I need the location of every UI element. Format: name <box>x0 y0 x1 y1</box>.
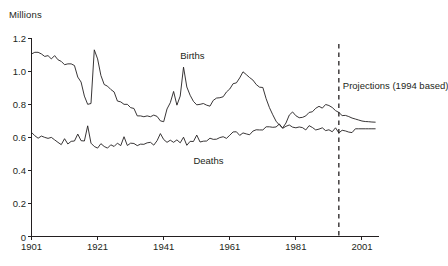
x-axis-tick-label: 1901 <box>21 241 42 252</box>
data-series-group <box>32 50 376 148</box>
x-axis-tick-label: 2001 <box>351 241 372 252</box>
y-axis-unit-label: Millions <box>9 9 42 20</box>
series-line-deaths <box>32 124 376 148</box>
series-label-births: Births <box>180 50 204 61</box>
y-axis-tick-label: 0.8 <box>13 99 26 110</box>
y-axis-tick-label: 0.2 <box>13 198 26 209</box>
x-axis-tick-label: 1961 <box>219 241 240 252</box>
series-line-births <box>32 50 376 128</box>
x-axis-tick-label: 1921 <box>87 241 108 252</box>
projection-divider-label: Projections (1994 based) <box>343 80 448 91</box>
y-axis-tick-label: 1.2 <box>13 33 26 44</box>
x-axis-tick-label: 1941 <box>153 241 174 252</box>
y-axis-tick-label: 1.0 <box>13 66 26 77</box>
y-axis-tick-label: 0.6 <box>13 132 26 143</box>
x-axis-tick-marks <box>32 237 362 241</box>
series-label-deaths: Deaths <box>193 155 223 166</box>
x-axis-tick-label: 1981 <box>285 241 306 252</box>
y-axis-tick-marks <box>28 38 32 236</box>
y-axis-tick-label: 0.4 <box>13 165 26 176</box>
